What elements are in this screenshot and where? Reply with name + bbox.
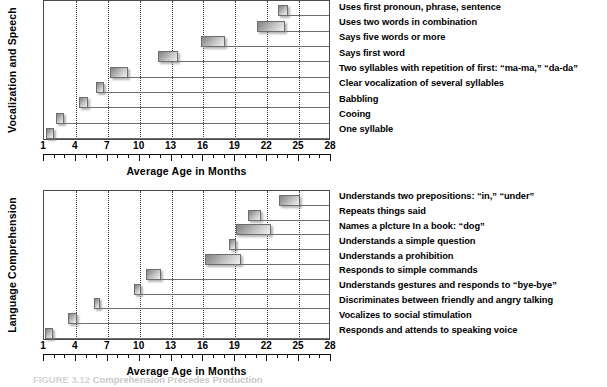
x-axis-ticks-bottom xyxy=(43,354,330,363)
x-major-tick-1 xyxy=(43,354,44,361)
x-tick-label-28: 28 xyxy=(324,340,335,351)
milestone-label: Uses first pronoun, phrase, sentence xyxy=(339,2,501,12)
chart-row xyxy=(44,324,329,339)
milestone-bar xyxy=(201,36,224,47)
x-major-tick-19 xyxy=(234,154,235,161)
milestone-bar xyxy=(229,239,236,250)
x-tick-label-4: 4 xyxy=(72,340,78,351)
figure-caption: FIGURE 3.12 Comprehension Precedes Produ… xyxy=(33,374,263,385)
chart-row xyxy=(44,309,329,324)
milestone-bar xyxy=(45,328,52,339)
x-major-tick-22 xyxy=(266,354,267,361)
chart-row xyxy=(44,108,329,123)
x-tick-label-10: 10 xyxy=(133,340,144,351)
milestone-bar xyxy=(68,313,77,324)
x-major-tick-25 xyxy=(298,354,299,361)
plot-area-bottom xyxy=(43,190,330,340)
x-tick-label-13: 13 xyxy=(165,140,176,151)
x-minor-tick-24 xyxy=(287,354,288,358)
milestone-bar xyxy=(158,51,178,62)
x-tick-label-13: 13 xyxy=(165,340,176,351)
x-minor-tick-17 xyxy=(213,354,214,358)
figure-number: FIGURE 3.12 xyxy=(33,374,90,385)
chart-row xyxy=(44,1,329,16)
x-tick-label-19: 19 xyxy=(229,340,240,351)
x-minor-tick-20 xyxy=(245,354,246,358)
x-minor-tick-26 xyxy=(309,154,310,158)
chart-row xyxy=(44,265,329,280)
x-major-tick-7 xyxy=(107,154,108,161)
x-tick-label-16: 16 xyxy=(197,140,208,151)
milestone-label: Clear vocalization of several syllables xyxy=(339,78,504,88)
x-axis-ticklabels-top: 14710131619222528 xyxy=(43,140,330,154)
x-major-tick-28 xyxy=(330,154,331,161)
x-minor-tick-14 xyxy=(181,154,182,158)
x-tick-label-1: 1 xyxy=(40,340,46,351)
milestone-label: Understands a simple question xyxy=(339,236,475,246)
milestone-label: Says five words or more xyxy=(339,32,445,42)
x-axis-ticks-top xyxy=(43,154,330,163)
x-minor-tick-8 xyxy=(117,154,118,158)
milestone-bar xyxy=(278,5,289,16)
x-minor-tick-11 xyxy=(149,354,150,358)
milestone-bar xyxy=(79,97,88,108)
x-minor-tick-6 xyxy=(96,354,97,358)
row-baseline xyxy=(46,138,329,139)
x-minor-tick-18 xyxy=(224,354,225,358)
plot-area-top xyxy=(43,0,330,140)
x-minor-tick-8 xyxy=(117,354,118,358)
x-axis-title-top: Average Age in Months xyxy=(43,165,330,177)
milestone-label: Responds to simple commands xyxy=(339,265,478,275)
milestone-label: Uses two words in combination xyxy=(339,17,477,27)
milestone-bar xyxy=(110,67,128,78)
chart-row xyxy=(44,221,329,236)
milestone-label: Two syllables with repetition of first: … xyxy=(339,63,578,73)
x-tick-label-16: 16 xyxy=(197,340,208,351)
figure-caption-text: Comprehension Precedes Production xyxy=(93,374,263,385)
milestone-label: One syllable xyxy=(339,124,393,134)
x-major-tick-13 xyxy=(171,154,172,161)
x-tick-label-19: 19 xyxy=(229,140,240,151)
x-minor-tick-23 xyxy=(277,354,278,358)
milestone-label: Cooing xyxy=(339,109,371,119)
milestone-bar xyxy=(279,195,300,206)
x-tick-label-1: 1 xyxy=(40,140,46,151)
x-minor-tick-12 xyxy=(160,154,161,158)
milestone-bar xyxy=(205,254,241,265)
chart-row xyxy=(44,62,329,77)
x-minor-tick-14 xyxy=(181,354,182,358)
milestone-bar xyxy=(248,210,261,221)
milestone-bar xyxy=(46,128,53,139)
x-minor-tick-9 xyxy=(128,354,129,358)
x-major-tick-4 xyxy=(75,354,76,361)
x-minor-tick-11 xyxy=(149,154,150,158)
vocalization-speech-panel: Vocalization and Speech 1471013161922252… xyxy=(0,0,607,180)
x-tick-label-10: 10 xyxy=(133,140,144,151)
x-tick-label-22: 22 xyxy=(261,340,272,351)
x-minor-tick-12 xyxy=(160,354,161,358)
x-tick-label-25: 25 xyxy=(293,340,304,351)
x-minor-tick-9 xyxy=(128,154,129,158)
x-minor-tick-17 xyxy=(213,154,214,158)
x-minor-tick-2 xyxy=(54,354,55,358)
row-baseline xyxy=(45,338,329,339)
x-axis-top: 14710131619222528 Average Age in Months xyxy=(43,140,330,177)
x-minor-tick-15 xyxy=(192,154,193,158)
x-major-tick-7 xyxy=(107,354,108,361)
chart-row xyxy=(44,235,329,250)
x-tick-label-4: 4 xyxy=(72,140,78,151)
x-major-tick-28 xyxy=(330,354,331,361)
milestone-bar xyxy=(134,284,140,295)
x-major-tick-13 xyxy=(171,354,172,361)
chart-row xyxy=(44,47,329,62)
x-major-tick-10 xyxy=(139,354,140,361)
milestone-bar xyxy=(96,82,103,93)
x-minor-tick-18 xyxy=(224,154,225,158)
x-minor-tick-6 xyxy=(96,154,97,158)
x-minor-tick-23 xyxy=(277,154,278,158)
x-major-tick-25 xyxy=(298,154,299,161)
milestone-label: Vocalizes to social stimulation xyxy=(339,310,472,320)
x-major-tick-16 xyxy=(202,154,203,161)
milestone-label: Repeats things said xyxy=(339,206,426,216)
x-minor-tick-21 xyxy=(256,354,257,358)
